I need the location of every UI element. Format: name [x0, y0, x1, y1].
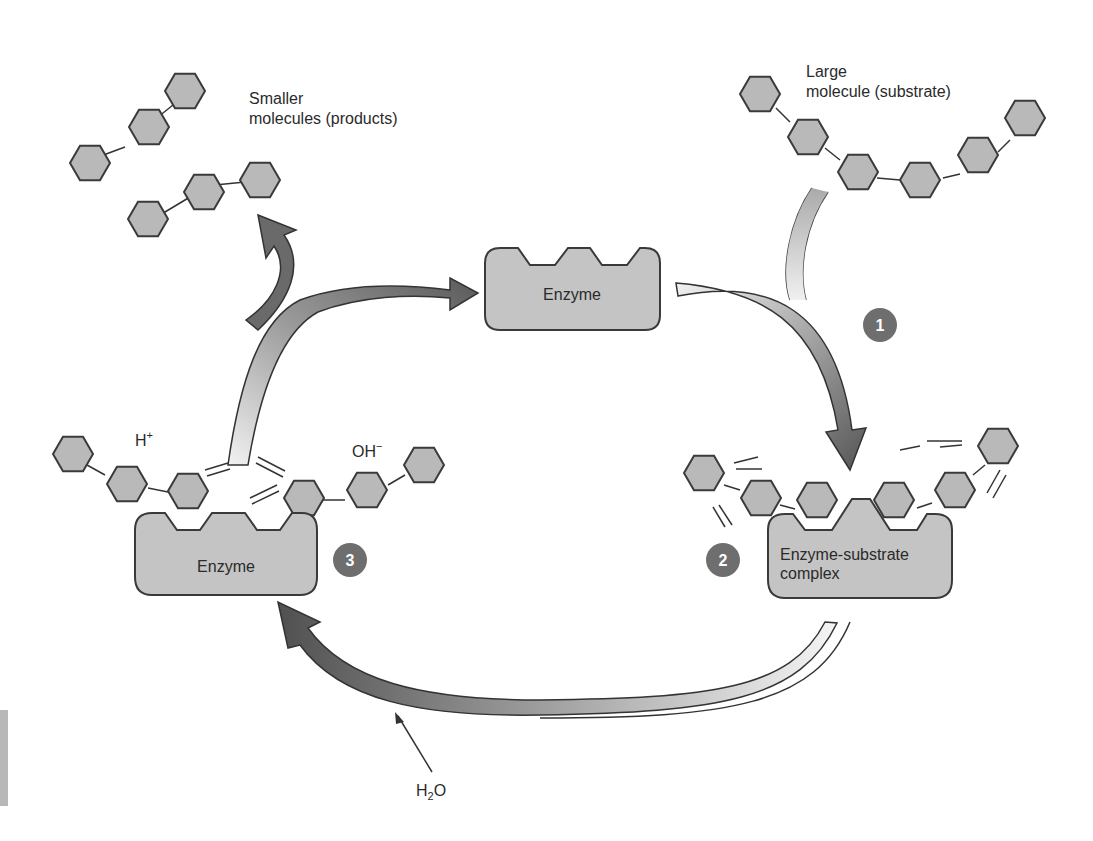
substrate-label-line1: Large: [806, 63, 847, 80]
enzyme-left-label: Enzyme: [197, 558, 255, 575]
enzyme-left: Enzyme: [135, 513, 317, 595]
water-label: H2O: [416, 782, 446, 802]
enzyme-cycle-diagram: Smaller molecules (products) Large molec…: [0, 0, 1093, 841]
water-pointer: [395, 712, 432, 772]
products-label-line2: molecules (products): [249, 110, 398, 127]
complex-label-line1: Enzyme-substrate: [780, 546, 909, 563]
svg-text:2: 2: [719, 552, 728, 569]
arrow-release-products: [228, 215, 478, 465]
step-badge-3: 3: [333, 543, 367, 577]
product-molecule-1: [70, 74, 205, 181]
products-label-line1: Smaller: [249, 90, 304, 107]
substrate-label-line2: molecule (substrate): [806, 83, 951, 100]
svg-text:3: 3: [346, 552, 355, 569]
h-plus-label: H+: [135, 429, 153, 449]
oh-minus-label: OH−: [352, 440, 382, 460]
complex-label-line2: complex: [780, 565, 840, 582]
enzyme-substrate-complex: Enzyme-substrate complex: [768, 483, 952, 598]
enzyme-top: Enzyme: [485, 248, 660, 330]
enzyme-top-label: Enzyme: [543, 286, 601, 303]
step-badge-1: 1: [863, 308, 897, 342]
product-molecule-2: [128, 163, 280, 237]
arrow-enzyme-to-complex: [676, 283, 866, 470]
svg-text:1: 1: [876, 317, 885, 334]
arrow-complex-to-enzyme: [278, 602, 850, 718]
step-badge-2: 2: [706, 543, 740, 577]
